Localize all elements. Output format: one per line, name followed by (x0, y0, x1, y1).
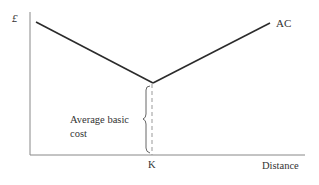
ac-curve-right-segment (153, 23, 270, 83)
average-cost-diagram: £ AC Average basic cost K Distance (0, 0, 319, 185)
x-axis-label: Distance (262, 161, 299, 172)
average-basic-cost-label: Average basic cost (70, 113, 140, 141)
y-axis-label: £ (12, 13, 18, 24)
ac-curve-left-segment (36, 22, 153, 83)
k-point-label: K (148, 160, 156, 171)
curly-brace-icon (143, 86, 150, 153)
diagram-canvas (0, 0, 319, 185)
ac-curve-label: AC (276, 18, 291, 29)
